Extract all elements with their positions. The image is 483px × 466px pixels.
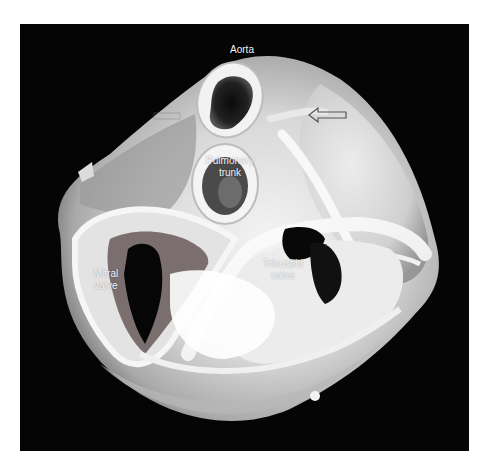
heart-specimen-photo: Aorta Pulmonary trunk Mitral valve Tricu… bbox=[20, 24, 469, 451]
heart-illustration bbox=[20, 24, 469, 451]
pulmonary-trunk-label: Pulmonary trunk bbox=[200, 155, 260, 179]
hollow-arrow-left-icon bbox=[308, 107, 348, 123]
faint-arrow-right-icon bbox=[153, 111, 183, 121]
aorta-label: Aorta bbox=[222, 44, 262, 56]
mitral-valve-label: Mitral valve bbox=[88, 268, 124, 292]
tricuspid-valve-label: Tricuspid valve bbox=[258, 258, 308, 282]
